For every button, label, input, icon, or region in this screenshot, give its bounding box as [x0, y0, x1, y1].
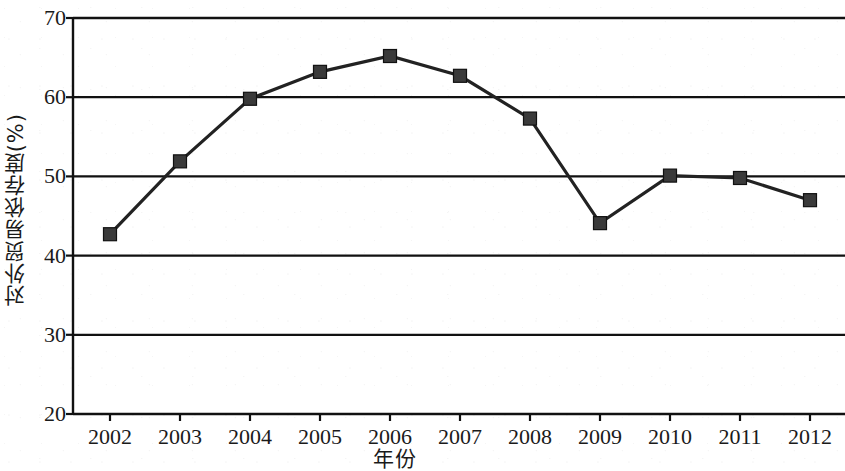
- data-point-2002: [104, 228, 117, 241]
- data-point-2009: [594, 217, 607, 230]
- marker-square-2006: [384, 50, 397, 63]
- marker-square-2004: [244, 92, 257, 105]
- data-point-2010: [664, 169, 677, 182]
- x-tick-label-2003: 2003: [140, 424, 220, 450]
- data-point-2007: [454, 69, 467, 82]
- marker-square-2009: [594, 217, 607, 230]
- x-tick-label-2002: 2002: [70, 424, 150, 450]
- x-tick-label-2010: 2010: [630, 424, 710, 450]
- x-tick-label-2005: 2005: [280, 424, 360, 450]
- marker-square-2002: [104, 228, 117, 241]
- marker-square-2010: [664, 169, 677, 182]
- x-tick-label-2008: 2008: [490, 424, 570, 450]
- x-axis-title: 年份: [0, 448, 790, 470]
- marker-square-2012: [804, 194, 817, 207]
- data-point-2005: [314, 65, 327, 78]
- marker-square-2011: [734, 171, 747, 184]
- x-tick-label-2009: 2009: [560, 424, 640, 450]
- data-point-2006: [384, 50, 397, 63]
- data-point-2003: [174, 155, 187, 168]
- axis-ticks: [66, 18, 810, 421]
- marker-square-2007: [454, 69, 467, 82]
- x-tick-label-2007: 2007: [420, 424, 500, 450]
- marker-square-2008: [524, 112, 537, 125]
- data-point-2012: [804, 194, 817, 207]
- x-tick-label-2004: 2004: [210, 424, 290, 450]
- data-point-markers: [104, 50, 817, 241]
- data-point-2004: [244, 92, 257, 105]
- marker-square-2003: [174, 155, 187, 168]
- x-tick-label-2012: 2012: [770, 424, 845, 450]
- x-tick-label-2011: 2011: [700, 424, 780, 450]
- marker-square-2005: [314, 65, 327, 78]
- data-point-2011: [734, 171, 747, 184]
- gridlines: [73, 97, 845, 335]
- data-point-2008: [524, 112, 537, 125]
